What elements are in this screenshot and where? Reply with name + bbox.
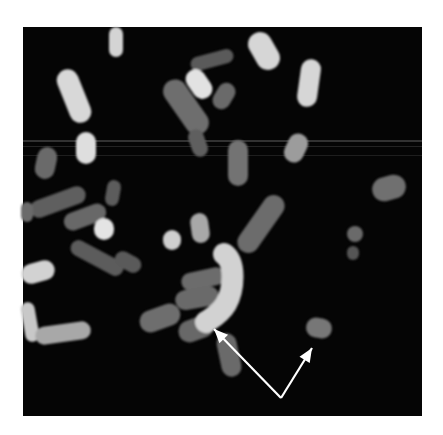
chromosome: [76, 132, 96, 164]
chromosome: [21, 202, 33, 222]
chromosome: [228, 140, 248, 186]
chromosome: [347, 246, 359, 260]
chromosome: [163, 230, 181, 250]
chromosome: [347, 226, 363, 242]
chromosome: [109, 27, 123, 57]
chromosome-micrograph: [0, 0, 443, 435]
chromosome: [94, 218, 114, 240]
